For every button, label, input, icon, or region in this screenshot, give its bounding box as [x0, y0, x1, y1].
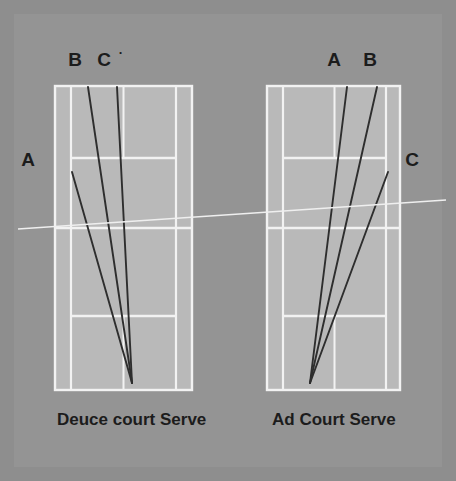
label-ad-b: B	[363, 49, 377, 70]
ad-court	[267, 86, 400, 390]
serve-diagram-figure: B C · A A B C Deuce court Serve Ad Court…	[0, 0, 456, 481]
label-deuce-a: A	[21, 149, 35, 170]
label-deuce-b: B	[68, 49, 82, 70]
stray-mark: ·	[119, 45, 123, 60]
label-deuce-c: C	[97, 49, 111, 70]
diagram-canvas: B C · A A B C Deuce court Serve Ad Court…	[0, 0, 456, 481]
caption-ad-court: Ad Court Serve	[272, 410, 396, 429]
label-ad-a: A	[327, 49, 341, 70]
label-ad-c: C	[405, 149, 419, 170]
caption-deuce-court: Deuce court Serve	[57, 410, 206, 429]
deuce-court	[55, 86, 192, 390]
